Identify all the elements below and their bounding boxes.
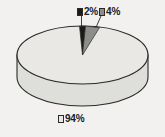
data-label-94-percent-text: 94% [65, 114, 84, 124]
data-label-94-percent: 94% [58, 114, 84, 124]
legend-swatch-light-icon [58, 115, 64, 123]
pie-chart-figure: 2% 4% 94% [0, 0, 165, 137]
bottom-data-label: 94% [58, 114, 84, 124]
leader-line-4-percent [96, 16, 101, 27]
